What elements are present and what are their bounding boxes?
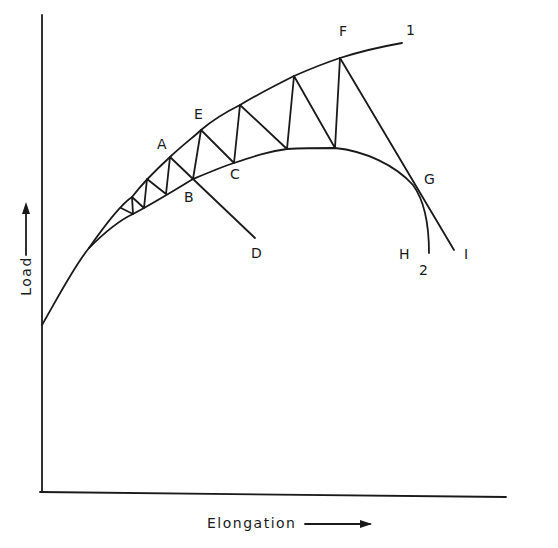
load-elongation-diagram bbox=[0, 0, 558, 548]
label-e: E bbox=[194, 107, 203, 121]
label-f: F bbox=[339, 24, 348, 38]
label-c: C bbox=[230, 167, 240, 181]
label-i: I bbox=[464, 247, 469, 261]
label-a: A bbox=[157, 137, 167, 151]
x-axis-title: Elongation bbox=[207, 515, 296, 531]
curve-1-label: 1 bbox=[406, 23, 415, 37]
curve-1 bbox=[42, 43, 402, 325]
y-axis-title: Load bbox=[18, 256, 34, 296]
x-axis bbox=[40, 492, 506, 497]
line-f-i bbox=[340, 58, 454, 250]
y-arrow-head-icon bbox=[22, 202, 30, 214]
label-d: D bbox=[251, 246, 262, 260]
label-h: H bbox=[399, 247, 410, 261]
label-g: G bbox=[424, 172, 435, 186]
curve-2 bbox=[89, 148, 429, 253]
line-b-d bbox=[193, 179, 255, 238]
label-b: B bbox=[184, 190, 194, 204]
x-arrow-head-icon bbox=[360, 520, 372, 528]
zigzag-lines bbox=[121, 58, 340, 214]
curve-2-label: 2 bbox=[419, 263, 428, 277]
